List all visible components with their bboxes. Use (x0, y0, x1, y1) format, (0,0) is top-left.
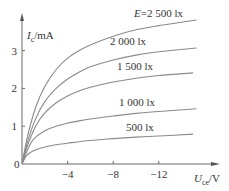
x-label-unit: /V (209, 172, 220, 184)
curve-label: 1 000 lx (119, 96, 156, 108)
x-tick-label: −4 (62, 168, 74, 180)
x-tick-label: −8 (107, 168, 119, 180)
y-axis-label: Ic/mA (26, 29, 54, 44)
x-axis-label: Uce/V (194, 172, 220, 187)
series-line-4 (22, 109, 196, 164)
x-axis-arrow-icon (211, 162, 220, 166)
series-line-5 (22, 134, 193, 164)
curve-label: 500 lx (126, 121, 154, 133)
curve-label-value: =2 500 lx (141, 7, 184, 19)
origin-label: 0 (14, 158, 20, 170)
y-tick-label: 3 (12, 45, 18, 57)
curve-label: 2 000 lx (110, 35, 147, 47)
y-tick-label: 2 (12, 82, 18, 94)
curve-label: 1 500 lx (117, 60, 154, 72)
y-tick-label: 1 (12, 120, 18, 132)
y-axis-arrow-icon (20, 13, 24, 21)
y-label-unit: /mA (34, 29, 54, 41)
curve-label: E=2 500 lx (133, 7, 183, 19)
series-line-3 (22, 73, 193, 164)
chart: −4−8−12123 E=2 500 lx2 000 lx1 500 lx1 0… (0, 0, 229, 191)
x-tick-label: −12 (150, 168, 167, 180)
